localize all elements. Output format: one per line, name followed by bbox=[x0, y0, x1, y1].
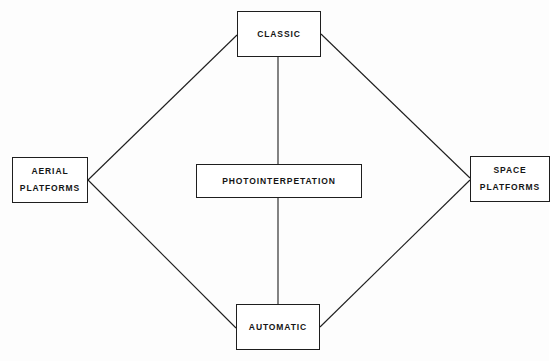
node-automatic: AUTOMATIC bbox=[236, 304, 320, 350]
node-space-label-line1: SPACE bbox=[493, 162, 526, 179]
node-photointerpretation: PHOTOINTERPETATION bbox=[196, 164, 362, 198]
node-classic-label: CLASSIC bbox=[257, 26, 301, 43]
node-space-platforms: SPACE PLATFORMS bbox=[470, 156, 550, 202]
node-classic: CLASSIC bbox=[237, 11, 321, 57]
edge-space-automatic bbox=[320, 180, 470, 327]
edge-aerial-automatic bbox=[88, 180, 236, 328]
node-aerial-label-line1: AERIAL bbox=[31, 163, 68, 180]
node-aerial-label-line2: PLATFORMS bbox=[20, 180, 80, 197]
edge-classic-space bbox=[321, 34, 470, 178]
node-photo-label: PHOTOINTERPETATION bbox=[222, 173, 335, 190]
edge-aerial-classic bbox=[88, 35, 237, 180]
node-space-label-line2: PLATFORMS bbox=[480, 179, 540, 196]
node-automatic-label: AUTOMATIC bbox=[249, 319, 307, 336]
node-aerial-platforms: AERIAL PLATFORMS bbox=[12, 157, 88, 203]
